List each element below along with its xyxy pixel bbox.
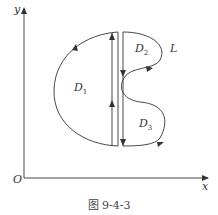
region-d2-label: D2 (135, 42, 148, 57)
curve-label: L (170, 42, 177, 55)
axes (24, 10, 208, 178)
diagram-canvas (0, 0, 218, 215)
region-d3-label: D3 (139, 117, 152, 132)
x-axis-label: x (202, 180, 208, 193)
y-axis-label: y (14, 3, 20, 16)
origin-label: O (13, 173, 22, 186)
figure-caption: 图 9-4-3 (0, 196, 218, 212)
y-axis-arrow-icon (21, 7, 27, 14)
region-d1-label: D1 (74, 81, 87, 96)
